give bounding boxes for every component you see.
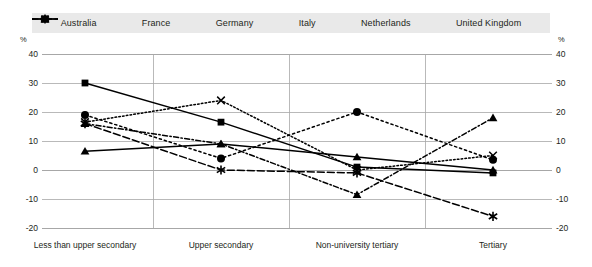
data-point-marker: [218, 119, 225, 126]
plot-area: [0, 0, 592, 267]
data-point-marker: [81, 111, 89, 119]
data-point-marker: [353, 108, 361, 116]
data-point-marker: [489, 114, 498, 122]
data-point-marker: [489, 156, 497, 164]
line-chart: Australia France Germany Italy: [0, 0, 592, 267]
data-point-marker: [490, 170, 497, 177]
data-point-marker: [489, 212, 497, 221]
data-point-marker: [353, 190, 362, 198]
data-point-marker: [82, 80, 89, 87]
data-point-marker: [217, 154, 225, 162]
